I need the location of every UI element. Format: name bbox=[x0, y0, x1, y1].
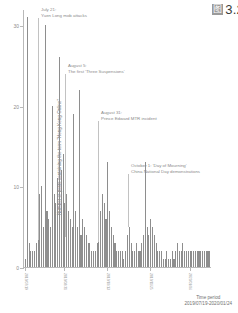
annotation-leader-line bbox=[38, 18, 39, 240]
bar bbox=[27, 17, 28, 267]
annotation-leader-line bbox=[65, 74, 66, 237]
y-tick-label: 10 bbox=[13, 185, 19, 190]
x-tick-mark bbox=[150, 267, 151, 271]
bar-series bbox=[25, 10, 211, 267]
annotation-text: July 21:Yuen Long mob attacks bbox=[41, 7, 87, 19]
figure-root: 图3.2 Number of posts containing the term… bbox=[0, 0, 238, 313]
annotation-line-2: Prince Edward MTR incident bbox=[101, 116, 157, 122]
figure-caption: 图3.2 bbox=[212, 2, 238, 17]
y-tick-label: 30 bbox=[13, 24, 19, 29]
x-tick-label: 2019/08/31 bbox=[63, 273, 66, 290]
x-tick-mark bbox=[25, 267, 26, 271]
x-tick-mark bbox=[107, 267, 108, 271]
y-tick-mark bbox=[20, 26, 24, 27]
plot-area: 0102030 2019/07/192019/08/312019/10/1320… bbox=[23, 10, 211, 268]
annotation-line-2: The first 'Three Suspensions' bbox=[68, 69, 125, 75]
x-axis-line bbox=[23, 267, 211, 268]
figure-caption-marker: 图 bbox=[212, 4, 223, 15]
bar bbox=[209, 251, 210, 267]
y-tick-label: 20 bbox=[13, 104, 19, 109]
time-period-legend: Time period 2019/07/19-2020/01/24 bbox=[184, 295, 232, 307]
y-tick-mark bbox=[20, 187, 24, 188]
x-tick-mark bbox=[190, 267, 191, 271]
y-tick-mark bbox=[20, 107, 24, 108]
y-tick-mark bbox=[20, 268, 24, 269]
x-tick-label: 2020/01/06 bbox=[188, 273, 191, 290]
x-tick-label: 2019/07/19 bbox=[23, 273, 26, 290]
annotation-line-2: Yuen Long mob attacks bbox=[41, 13, 87, 19]
figure-caption-number: 3.2 bbox=[225, 2, 238, 17]
y-axis-line bbox=[23, 10, 24, 268]
annotation-line-2: China National Day demonstrations bbox=[131, 169, 200, 175]
annotation-text: August 5:The first 'Three Suspensions' bbox=[68, 63, 125, 75]
annotation-leader-line bbox=[98, 121, 99, 242]
x-tick-label: 2019/10/13 bbox=[105, 273, 108, 290]
annotation-text: October 1: 'Day of Mourning'China Nation… bbox=[131, 163, 200, 175]
y-tick-label: 0 bbox=[16, 266, 19, 271]
time-period-range: 2019/07/19-2020/01/24 bbox=[184, 301, 232, 307]
annotation-leader-line bbox=[128, 174, 129, 227]
x-tick-label: 2019/11/25 bbox=[148, 273, 151, 290]
annotation-text: August 31:Prince Edward MTR incident bbox=[101, 110, 157, 122]
x-tick-mark bbox=[64, 267, 65, 271]
